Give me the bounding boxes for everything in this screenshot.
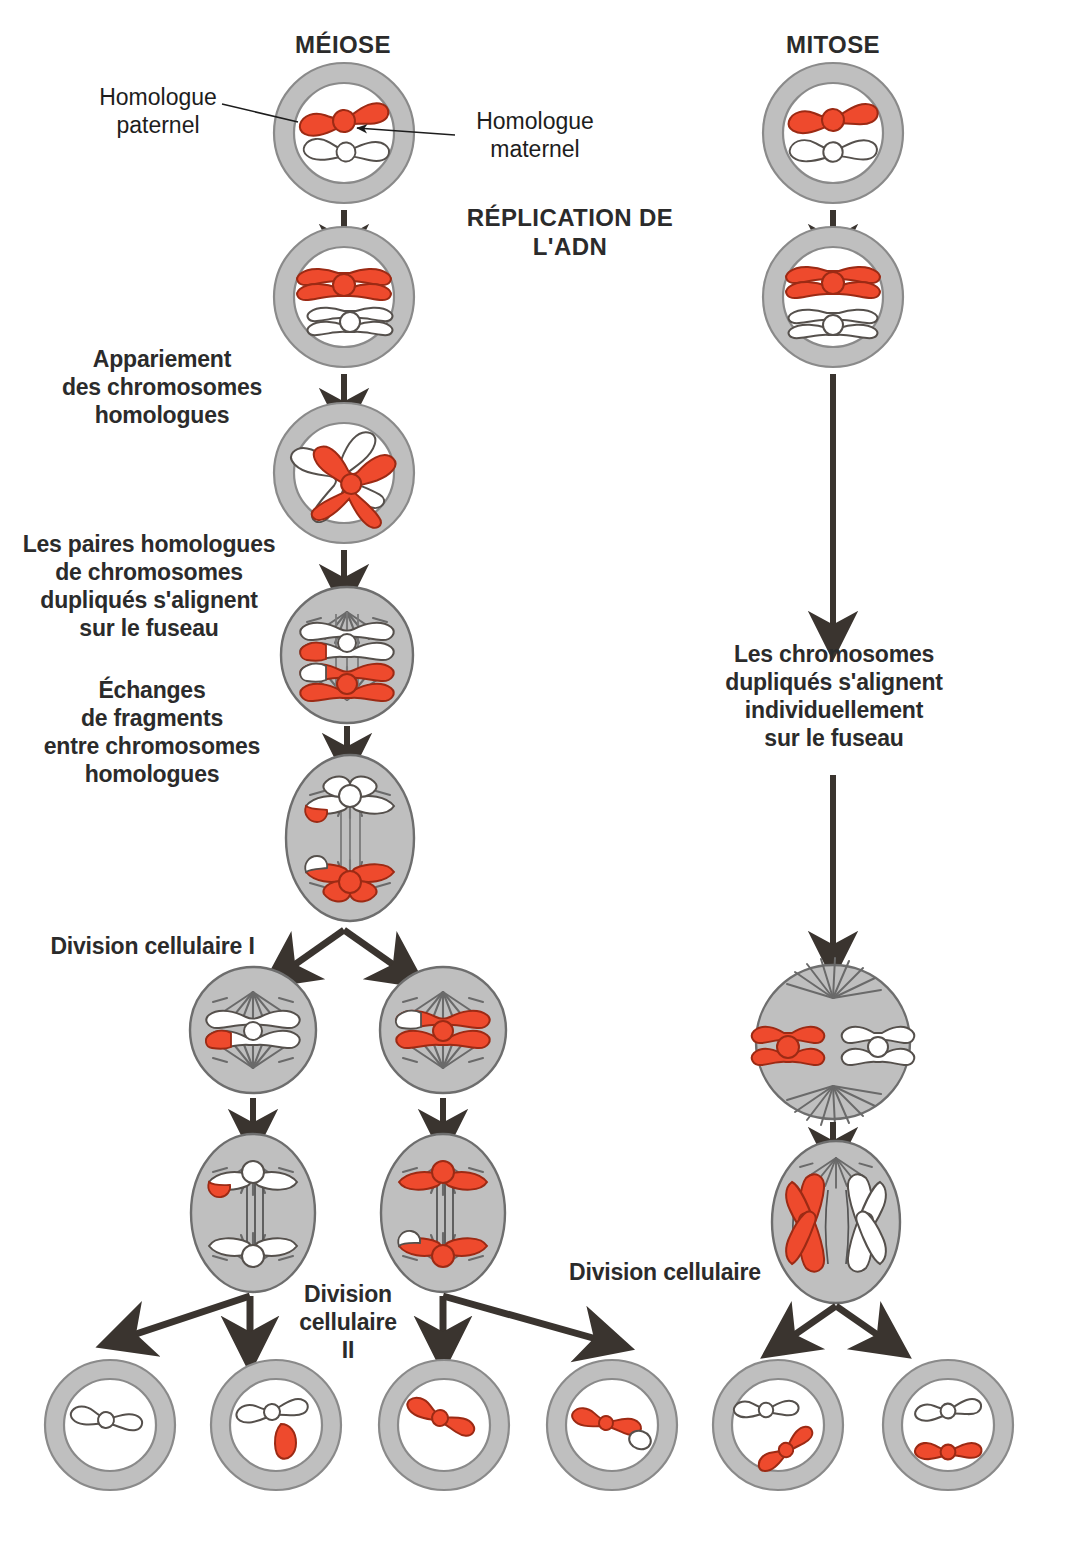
cell-meiose-interphase [274,63,414,203]
label-echanges-fragments: Échanges de fragments entre chromosomes … [32,676,272,788]
meiosis-mitosis-diagram: MÉIOSE MITOSE RÉPLICATION DE L'ADN Homol… [0,0,1065,1562]
cell-meiose-anaphase-ii-droite [381,1134,505,1292]
label-alignement-fuseau-mitose: Les chromosomes dupliqués s'alignent ind… [700,640,968,752]
cell-mitose-interphase [763,63,903,203]
label-division-cellulaire-i: Division cellulaire I [30,932,275,960]
column-title-mitose: MITOSE [728,30,938,59]
cell-mitose-anaphase [772,1141,900,1303]
callout-homologue-paternel: Homologue paternel [88,84,228,139]
cell-mitose-fille-droite [883,1360,1013,1490]
label-division-cellulaire-ii: Division cellulaire II [283,1280,413,1364]
cell-meiose-replication [274,227,414,367]
cell-mitose-fille-gauche [713,1360,843,1490]
cell-meiose-anaphase-i [286,755,414,921]
cell-meiose-metaphase-i [281,587,413,723]
cell-gamete-1 [45,1360,175,1490]
arrow-mitose-division [790,1306,882,1338]
label-division-cellulaire-mitose: Division cellulaire [540,1258,790,1286]
cell-meiose-appariement [274,403,414,543]
cell-mitose-metaphase [752,958,914,1126]
label-appariement-homologues: Appariement des chromosomes homologues [48,345,276,429]
callout-homologue-maternel: Homologue maternel [460,108,610,163]
arrow-division-cellulaire-i [290,930,398,968]
cell-gamete-4 [547,1360,677,1490]
cell-meiose-anaphase-ii-gauche [191,1134,315,1292]
cell-meiose-fille-i-droite [380,967,506,1093]
cell-meiose-fille-i-gauche [190,967,316,1093]
column-title-meiose: MÉIOSE [238,30,448,59]
label-replication-adn: RÉPLICATION DE L'ADN [430,203,710,262]
label-alignement-fuseau-meiose: Les paires homologues de chromosomes dup… [18,530,280,642]
cell-gamete-2 [211,1360,341,1490]
cell-mitose-replication [763,227,903,367]
cell-gamete-3 [379,1360,509,1490]
